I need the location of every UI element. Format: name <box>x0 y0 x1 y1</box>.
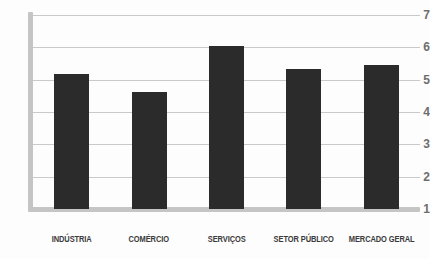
x-axis-tick-labels: INDÚSTRIACOMÉRCIOSERVIÇOSSETOR PÚBLICOME… <box>33 234 420 252</box>
x-tick-label-4: SETOR PÚBLICO <box>270 234 338 244</box>
x-tick-label-2: COMÉRCIO <box>115 234 183 244</box>
x-tick-label-3: SERVIÇOS <box>192 234 260 244</box>
x-tick-label-5: MERCADO GERAL <box>347 234 415 244</box>
bar-chart: 7 6 5 4 3 2 1 INDÚSTRIACOMÉRCIOSERVIÇOSS… <box>0 0 430 259</box>
bar-3 <box>209 46 244 209</box>
x-tick-label-1: INDÚSTRIA <box>38 234 106 244</box>
bar-1 <box>54 74 89 209</box>
bars-layer <box>33 12 420 209</box>
bar-2 <box>132 92 167 209</box>
bar-4 <box>286 69 321 209</box>
bar-5 <box>364 65 399 209</box>
